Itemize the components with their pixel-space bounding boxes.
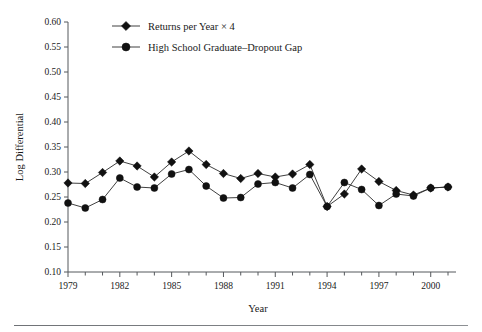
series-hs-graduate-dropout-gap-marker-circle[interactable] (237, 194, 244, 201)
series-returns-per-year-marker-diamond[interactable] (185, 147, 193, 155)
series-hs-graduate-dropout-gap-marker-circle[interactable] (272, 179, 279, 186)
y-tick-label: 0.20 (44, 217, 61, 227)
series-hs-graduate-dropout-gap-marker-circle[interactable] (168, 171, 175, 178)
x-axis-title: Year (248, 303, 268, 314)
series-returns-per-year-marker-diamond[interactable] (116, 157, 124, 165)
chart-figure: 0.100.150.200.250.300.350.400.450.500.55… (0, 0, 482, 332)
series-hs-graduate-dropout-gap-marker-circle[interactable] (306, 171, 313, 178)
y-tick-label: 0.45 (44, 92, 61, 102)
x-tick-label: 1988 (214, 281, 233, 291)
series-returns-per-year-marker-diamond[interactable] (357, 165, 365, 173)
series-returns-per-year-marker-diamond[interactable] (237, 174, 245, 182)
series-hs-graduate-dropout-gap-marker-circle[interactable] (358, 186, 365, 193)
series-hs-graduate-dropout-gap-marker-circle[interactable] (289, 185, 296, 192)
footer-divider (14, 325, 468, 326)
series-returns-per-year-marker-diamond[interactable] (340, 190, 348, 198)
series-returns-per-year-marker-diamond[interactable] (254, 169, 262, 177)
y-tick-label: 0.35 (44, 142, 61, 152)
series-hs-graduate-dropout-gap-marker-circle[interactable] (375, 202, 382, 209)
series-returns-per-year-marker-diamond[interactable] (288, 170, 296, 178)
series-hs-graduate-dropout-gap-marker-circle[interactable] (116, 175, 123, 182)
series-returns-per-year-marker-diamond[interactable] (98, 168, 106, 176)
y-tick-label: 0.15 (44, 242, 61, 252)
series-hs-graduate-dropout-gap-marker-circle[interactable] (220, 195, 227, 202)
series-hs-graduate-dropout-gap-marker-circle[interactable] (324, 203, 331, 210)
series-returns-per-year-marker-diamond[interactable] (306, 160, 314, 168)
series-hs-graduate-dropout-gap-marker-circle[interactable] (445, 184, 452, 191)
series-returns-per-year-marker-diamond[interactable] (133, 162, 141, 170)
series-returns-per-year-marker-diamond[interactable] (202, 160, 210, 168)
y-axis-title: Log Differential (14, 113, 25, 181)
y-tick-label: 0.60 (44, 17, 61, 27)
y-tick-label: 0.40 (44, 117, 61, 127)
series-hs-graduate-dropout-gap-marker-circle[interactable] (65, 200, 72, 207)
x-tick-label: 2000 (421, 281, 440, 291)
series-hs-graduate-dropout-gap-marker-circle[interactable] (82, 205, 89, 212)
x-tick-label: 1985 (162, 281, 181, 291)
series-returns-per-year-marker-diamond[interactable] (64, 179, 72, 187)
series-returns-per-year-line (68, 151, 448, 207)
legend-label-1: High School Graduate–Dropout Gap (148, 42, 302, 53)
series-returns-per-year-marker-diamond[interactable] (219, 169, 227, 177)
y-tick-label: 0.30 (44, 167, 61, 177)
series-hs-graduate-dropout-gap-marker-circle[interactable] (203, 183, 210, 190)
legend-marker-circle (122, 43, 130, 51)
y-tick-label: 0.55 (44, 42, 61, 52)
series-hs-graduate-dropout-gap-marker-circle[interactable] (151, 185, 158, 192)
y-tick-label: 0.25 (44, 192, 61, 202)
series-hs-graduate-dropout-gap-marker-circle[interactable] (134, 184, 141, 191)
series-hs-graduate-dropout-gap-marker-circle[interactable] (255, 181, 262, 188)
x-tick-label: 1991 (266, 281, 285, 291)
series-hs-graduate-dropout-gap-marker-circle[interactable] (185, 166, 192, 173)
legend-label-0: Returns per Year × 4 (148, 21, 235, 32)
series-returns-per-year-marker-diamond[interactable] (375, 177, 383, 185)
series-returns-per-year-marker-diamond[interactable] (81, 179, 89, 187)
chart-canvas: 0.100.150.200.250.300.350.400.450.500.55… (0, 0, 482, 332)
series-hs-graduate-dropout-gap-marker-circle[interactable] (341, 179, 348, 186)
series-hs-graduate-dropout-gap-marker-circle[interactable] (393, 191, 400, 198)
y-tick-label: 0.50 (44, 67, 61, 77)
series-hs-graduate-dropout-gap-marker-circle[interactable] (410, 193, 417, 200)
y-tick-label: 0.10 (44, 267, 61, 277)
x-tick-label: 1997 (369, 281, 388, 291)
x-tick-label: 1994 (318, 281, 337, 291)
x-tick-label: 1982 (110, 281, 129, 291)
legend-marker-diamond (121, 21, 130, 30)
x-tick-label: 1979 (59, 281, 78, 291)
series-hs-graduate-dropout-gap-marker-circle[interactable] (99, 196, 106, 203)
series-hs-graduate-dropout-gap-marker-circle[interactable] (427, 185, 434, 192)
